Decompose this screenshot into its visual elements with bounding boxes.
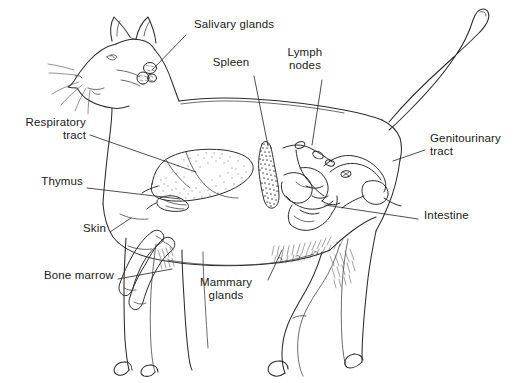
spleen-organ xyxy=(259,141,279,208)
label-skin: Skin xyxy=(40,222,106,235)
label-lymph-nodes: Lymphnodes xyxy=(277,46,333,72)
intestine-organ xyxy=(281,167,340,230)
label-thymus: Thymus xyxy=(0,175,83,188)
lung-organ xyxy=(142,149,253,201)
label-genitourinary-tract: Genitourinarytract xyxy=(430,132,501,158)
label-respiratory-line2: tract xyxy=(63,129,86,141)
cat-body-outline xyxy=(48,9,489,376)
label-respiratory-tract: Respiratorytract xyxy=(0,116,86,142)
label-lymph-nodes-line2: nodes xyxy=(289,59,321,71)
mammary-glands-organ xyxy=(272,237,343,263)
leader-mammary-glands xyxy=(268,250,282,280)
mammary-hatch xyxy=(272,237,343,263)
label-bone-marrow: Bone marrow xyxy=(0,269,114,282)
salivary-glands-organ xyxy=(137,63,157,86)
leader-intestine xyxy=(325,205,418,219)
label-respiratory-line1: Respiratory xyxy=(26,116,86,128)
leader-lines xyxy=(87,35,425,280)
genitourinary-organ xyxy=(324,155,401,208)
spleen-stipple xyxy=(259,143,278,207)
leader-bone-marrow xyxy=(118,269,172,279)
label-genitourinary-line2: tract xyxy=(430,145,453,157)
leader-skin xyxy=(110,218,131,232)
label-salivary-glands: Salivary glands xyxy=(194,18,274,31)
leader-genitourinary xyxy=(393,150,425,161)
label-spleen: Spleen xyxy=(201,56,261,69)
lung-stipple xyxy=(158,152,246,198)
thymus-organ xyxy=(147,196,189,212)
label-genitourinary-line1: Genitourinary xyxy=(430,132,501,144)
whiskers xyxy=(48,64,90,114)
label-intestine: Intestine xyxy=(424,209,469,222)
label-mammary-line1: Mammary xyxy=(200,276,252,288)
cat-immune-system-diagram: Salivary glands Spleen Lymphnodes Genito… xyxy=(0,0,514,383)
leader-spleen xyxy=(254,76,268,146)
label-lymph-nodes-line1: Lymph xyxy=(288,46,323,58)
label-mammary-glands: Mammaryglands xyxy=(186,276,266,302)
leader-thymus xyxy=(87,188,180,199)
label-mammary-line2: glands xyxy=(209,289,244,301)
leader-lymph-nodes xyxy=(312,80,322,145)
